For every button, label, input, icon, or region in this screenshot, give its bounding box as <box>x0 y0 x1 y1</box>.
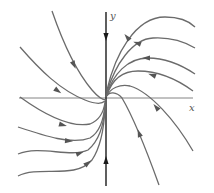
arrow-icon <box>142 55 150 60</box>
arrow-icon <box>135 128 143 137</box>
trajectory-curve-l5 <box>18 106 105 154</box>
trajectory-curve-l3 <box>20 97 105 125</box>
trajectory-curve-r1 <box>107 17 195 90</box>
phase-portrait-diagram: x y <box>0 0 214 193</box>
arrow-icon <box>103 33 108 41</box>
trajectory-curve-l2 <box>20 47 105 103</box>
arrow-icon <box>103 156 108 164</box>
trajectory-curve-l4 <box>18 104 105 141</box>
arrow-icon <box>65 138 73 144</box>
trajectory-curve-r6 <box>107 93 159 185</box>
trajectories-right <box>107 17 195 185</box>
trajectories-left <box>18 11 106 176</box>
y-axis-label: y <box>109 10 116 21</box>
trajectory-curve-l6 <box>18 108 105 176</box>
arrow-icon <box>75 149 84 157</box>
x-axis-label: x <box>189 102 195 113</box>
arrow-icon <box>53 87 63 96</box>
